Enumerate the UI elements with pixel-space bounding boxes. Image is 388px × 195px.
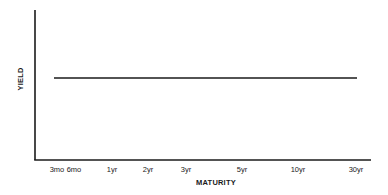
x-tick-label: 6mo [67,165,82,174]
x-tick-label: 5yr [237,165,247,174]
x-tick-label: 3yr [181,165,191,174]
x-tick-label: 30yr [349,165,364,174]
yield-curve-chart: YIELD 3mo 6mo 1yr 2yr 3yr 5yr 10yr 30yr … [0,0,388,195]
x-tick-label: 10yr [291,165,306,174]
x-axis-label: MATURITY [196,178,236,187]
x-tick-label: 3mo [50,165,65,174]
x-tick-label: 1yr [107,165,117,174]
y-axis-label: YIELD [16,67,25,90]
x-tick-label: 2yr [143,165,153,174]
